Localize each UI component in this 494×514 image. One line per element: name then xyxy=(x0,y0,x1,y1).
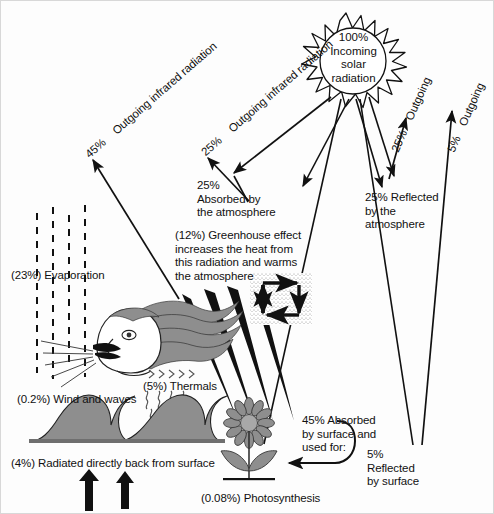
label-photosynthesis: (0.08%) Photosynthesis xyxy=(201,492,371,506)
beam-to-surface-2-head xyxy=(356,99,382,187)
label-reflected-by-surface: 5% Reflected by surface xyxy=(367,448,463,489)
sun-label-line-4: radiation xyxy=(319,72,388,86)
label-absorbed-by-atmosphere: 25% Absorbed by the atmosphere xyxy=(197,179,317,220)
label-thermals: (5%) Thermals xyxy=(143,380,253,394)
label-evaporation: (23%) Evaporation xyxy=(11,269,151,283)
beam-to-surface-1-head xyxy=(303,99,349,186)
sun-label-line-3: solar xyxy=(319,58,388,72)
beam-reflected-by-surface-out xyxy=(422,111,452,445)
wind-face-icon xyxy=(41,301,243,387)
label-radiated-back-from-surface: (4%) Radiated directly back from surface xyxy=(11,457,251,471)
beam-reflected-by-atmosphere-in xyxy=(369,97,394,176)
label-wind-and-waves: (0.2%) Wind and waves xyxy=(17,393,167,407)
label-greenhouse-effect: (12%) Greenhouse effect increases the he… xyxy=(175,229,335,283)
energy-budget-diagram: 100% Incoming solar radiation 45% Outgoi… xyxy=(0,0,494,514)
sun-label: 100% Incoming solar radiation xyxy=(319,31,388,85)
label-reflected-by-atmosphere: 25% Reflected by the atmosphere xyxy=(365,191,485,232)
radiated-back-arrows xyxy=(79,469,134,511)
